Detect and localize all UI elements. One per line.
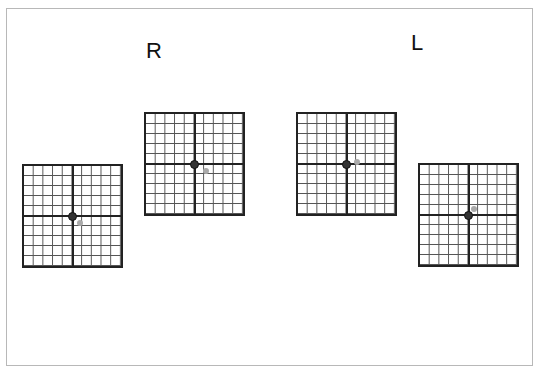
fixation-dot xyxy=(190,160,199,169)
deviation-dot xyxy=(354,159,360,165)
grid-r-upper xyxy=(144,112,245,216)
grid-l-upper xyxy=(296,112,397,216)
deviation-dot xyxy=(77,220,83,226)
right-eye-label: R xyxy=(146,40,162,62)
grid-l-lower xyxy=(418,163,519,267)
fixation-dot xyxy=(68,212,77,221)
fixation-dot xyxy=(464,211,473,220)
left-eye-label: L xyxy=(411,32,423,54)
fixation-dot xyxy=(342,160,351,169)
grid-r-lower xyxy=(22,164,123,268)
deviation-dot xyxy=(471,206,477,212)
deviation-dot xyxy=(203,168,209,174)
